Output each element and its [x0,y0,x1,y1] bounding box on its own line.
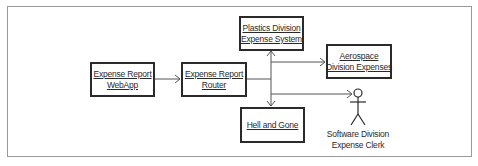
node-label-line1: Plastics Division [242,23,300,34]
node-hell-and-gone[interactable]: Hell and Gone [240,107,305,143]
actor-label-line2: Expense Clerk [318,140,398,151]
actor-stick-figure-icon [350,89,366,125]
actor-label-line1: Software Division [318,129,398,140]
node-aerospace-division-expenses[interactable]: Aerospace Division Expenses [326,44,392,79]
node-plastics-division-expense-system[interactable]: Plastics Division Expense System [239,16,304,51]
node-label-line2: WebApp [107,80,138,91]
node-label-line2: Expense System [241,34,302,45]
node-label-line2: Division Expenses [326,62,392,73]
node-label-line1: Expense Report [185,69,243,80]
actor-software-division-expense-clerk[interactable]: Software Division Expense Clerk [318,129,398,150]
node-label-line2: Router [202,80,226,91]
node-label-line1: Aerospace [340,51,379,62]
node-label-line1: Hell and Gone [247,120,299,131]
node-expense-report-router[interactable]: Expense Report Router [181,62,247,97]
node-label-line1: Expense Report [93,69,151,80]
node-expense-report-webapp[interactable]: Expense Report WebApp [90,62,155,97]
